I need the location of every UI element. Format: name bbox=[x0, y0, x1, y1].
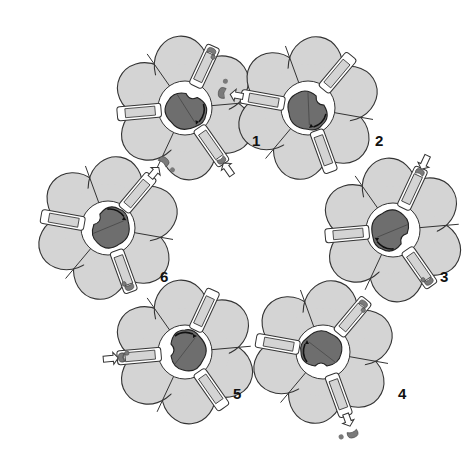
state-1 bbox=[108, 34, 261, 182]
state-label-5: 5 bbox=[233, 385, 241, 402]
released-ligand-icon bbox=[347, 429, 360, 439]
state-label-1: 1 bbox=[252, 132, 260, 149]
state-label-4: 4 bbox=[398, 385, 406, 402]
released-ion-icon bbox=[338, 434, 344, 440]
arrow-in-icon bbox=[103, 352, 119, 365]
state-4 bbox=[246, 276, 400, 442]
state-label-2: 2 bbox=[375, 132, 383, 149]
state-label-6: 6 bbox=[160, 268, 168, 285]
state-label-3: 3 bbox=[440, 268, 448, 285]
state-5 bbox=[103, 278, 262, 426]
